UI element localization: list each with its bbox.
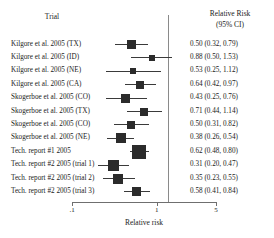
trial-label: Skogerboe et al. 2005 (CO) [11,118,119,131]
relative-risk-value: 0.31 (0.20, 0.47) [190,158,272,171]
forest-row: Skogerboe et al. 2005 (CO)0.50 (0.31, 0.… [0,118,274,131]
forest-row: Tech. report #2 2005 (trial 2)0.35 (0.23… [0,172,274,185]
relative-risk-value: 0.64 (0.42, 0.97) [190,78,272,91]
effect-size-marker [127,40,136,49]
effect-size-marker [127,121,135,129]
trial-label: Tech. report #2 2005 (trial 3) [11,185,119,198]
relative-risk-value: 0.38 (0.26, 0.54) [190,131,272,144]
relative-risk-value: 0.50 (0.31, 0.82) [190,118,272,131]
relative-risk-value: 0.50 (0.32, 0.79) [190,38,272,51]
relative-risk-value: 0.35 (0.23, 0.55) [190,172,272,185]
effect-size-marker [149,55,155,61]
forest-row: Kilgore et al. 2005 (NE)0.53 (0.25, 1.12… [0,64,274,77]
x-axis-tick-label: .1 [62,206,82,214]
effect-size-marker [136,81,144,89]
effect-size-marker [113,174,123,184]
effect-size-marker [140,108,148,116]
forest-row: Kilgore et al. 2005 (TX)0.50 (0.32, 0.79… [0,38,274,51]
trial-label: Kilgore et al. 2005 (TX) [11,38,119,51]
x-axis-title: Relative risk [87,218,201,227]
forest-row: Skogerboe et al. 2005 (CO)0.43 (0.25, 0.… [0,91,274,104]
forest-plot: Trial Relative Risk (95% CI) Kilgore et … [0,0,274,238]
x-axis-tick-label: 1 [147,206,167,214]
effect-size-marker [130,68,136,74]
trial-label: Tech. report #1 2005 [11,145,119,158]
forest-row: Kilgore et al. 2005 (CA)0.64 (0.42, 0.97… [0,78,274,91]
relative-risk-value: 0.71 (0.44, 1.14) [190,105,272,118]
trial-label: Skogerboe et al. 2005 (TX) [11,105,119,118]
effect-size-marker [121,94,130,103]
relative-risk-value: 0.53 (0.25, 1.12) [190,64,272,77]
effect-size-marker [132,145,146,159]
effect-size-marker [108,160,119,171]
relative-risk-value: 0.43 (0.25, 0.76) [190,91,272,104]
forest-row: Kilgore et al. 2005 (ID)0.88 (0.50, 1.53… [0,51,274,64]
forest-row: Tech. report #2 2005 (trial 3)0.58 (0.41… [0,185,274,198]
forest-row: Skogerboe et al. 2005 (TX)0.71 (0.44, 1.… [0,105,274,118]
trial-label: Kilgore et al. 2005 (ID) [11,51,119,64]
forest-row: Skogerboe et al. 2005 (NE)0.38 (0.26, 0.… [0,131,274,144]
trial-label: Kilgore et al. 2005 (CA) [11,78,119,91]
x-axis-tick-label: 5 [206,206,226,214]
trial-label: Skogerboe et al. 2005 (CO) [11,91,119,104]
trial-label: Kilgore et al. 2005 (NE) [11,64,119,77]
effect-size-marker [132,187,141,196]
x-axis [72,202,216,203]
forest-row: Tech. report #1 20050.62 (0.48, 0.80) [0,145,274,158]
trial-label: Skogerboe et al. 2005 (NE) [11,131,119,144]
relative-risk-value: 0.58 (0.41, 0.84) [190,185,272,198]
relative-risk-value: 0.88 (0.50, 1.53) [190,51,272,64]
relative-risk-value: 0.62 (0.48, 0.80) [190,145,272,158]
effect-size-marker [116,133,126,143]
forest-row: Tech. report #2 2005 (trial 1)0.31 (0.20… [0,158,274,171]
